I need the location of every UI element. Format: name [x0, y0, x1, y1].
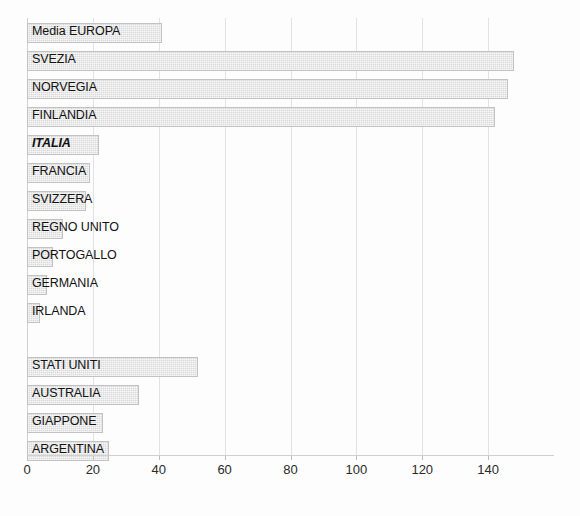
- bar-row[interactable]: SVEZIA: [27, 50, 554, 72]
- x-axis-tick-labels: 020406080100120140: [0, 462, 580, 484]
- bar[interactable]: [27, 51, 514, 71]
- bar-category-label: FINLANDIA: [32, 108, 96, 122]
- x-tick-20: [93, 456, 94, 460]
- bar-row[interactable]: REGNO UNITO: [27, 218, 554, 240]
- bar-category-label: NORVEGIA: [32, 80, 97, 94]
- bar[interactable]: [27, 79, 508, 99]
- bar-category-label: GERMANIA: [32, 276, 98, 290]
- x-tick-label: 80: [283, 462, 297, 477]
- x-tick-label: 120: [411, 462, 433, 477]
- x-tick-140: [488, 456, 489, 460]
- x-tick-label: 60: [217, 462, 231, 477]
- x-tick-80: [291, 456, 292, 460]
- bar-category-label: GIAPPONE: [32, 414, 97, 428]
- plot-area: Media EUROPASVEZIANORVEGIAFINLANDIAITALI…: [27, 18, 554, 455]
- bar-chart: Media EUROPASVEZIANORVEGIAFINLANDIAITALI…: [0, 0, 580, 516]
- bar-category-label: ITALIA: [32, 136, 71, 150]
- x-tick-0: [27, 456, 28, 460]
- x-tick-100: [356, 456, 357, 460]
- x-tick-label: 40: [152, 462, 166, 477]
- bar-row[interactable]: IRLANDA: [27, 302, 554, 324]
- bar-row[interactable]: GERMANIA: [27, 274, 554, 296]
- bar-row[interactable]: GIAPPONE: [27, 412, 554, 434]
- bar-category-label: IRLANDA: [32, 304, 85, 318]
- bar[interactable]: [27, 107, 495, 127]
- bar-category-label: SVEZIA: [32, 52, 76, 66]
- x-tick-label: 100: [346, 462, 368, 477]
- bar-row[interactable]: Media EUROPA: [27, 22, 554, 44]
- bar-category-label: AUSTRALIA: [32, 386, 101, 400]
- bar-category-label: PORTOGALLO: [32, 248, 117, 262]
- x-tick-label: 140: [477, 462, 499, 477]
- bar-row[interactable]: NORVEGIA: [27, 78, 554, 100]
- x-tick-120: [422, 456, 423, 460]
- bar-row[interactable]: PORTOGALLO: [27, 246, 554, 268]
- x-tick-60: [225, 456, 226, 460]
- bar-row[interactable]: AUSTRALIA: [27, 384, 554, 406]
- bar-category-label: ARGENTINA: [32, 442, 104, 456]
- bar-row[interactable]: SVIZZERA: [27, 190, 554, 212]
- x-tick-label: 20: [86, 462, 100, 477]
- x-tick-label: 0: [23, 462, 30, 477]
- bar-row[interactable]: STATI UNITI: [27, 356, 554, 378]
- bar-category-label: STATI UNITI: [32, 358, 101, 372]
- bar-category-label: FRANCIA: [32, 164, 86, 178]
- bar-rows: Media EUROPASVEZIANORVEGIAFINLANDIAITALI…: [27, 18, 554, 455]
- bar-category-label: SVIZZERA: [32, 192, 92, 206]
- bar-category-label: Media EUROPA: [32, 24, 120, 38]
- bar-row[interactable]: FINLANDIA: [27, 106, 554, 128]
- x-tick-40: [159, 456, 160, 460]
- bar-row[interactable]: ITALIA: [27, 134, 554, 156]
- bar-category-label: REGNO UNITO: [32, 220, 119, 234]
- bar-row[interactable]: FRANCIA: [27, 162, 554, 184]
